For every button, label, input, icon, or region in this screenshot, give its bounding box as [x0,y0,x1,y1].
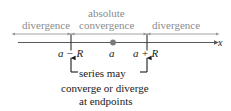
power-series-convergence-diagram: absolute divergence convergence divergen… [0,0,231,111]
endpoint-bracket [71,58,147,72]
axis-point-dot-a [110,40,116,46]
region-range-indicator [15,33,216,36]
diagram-artwork [0,0,231,111]
